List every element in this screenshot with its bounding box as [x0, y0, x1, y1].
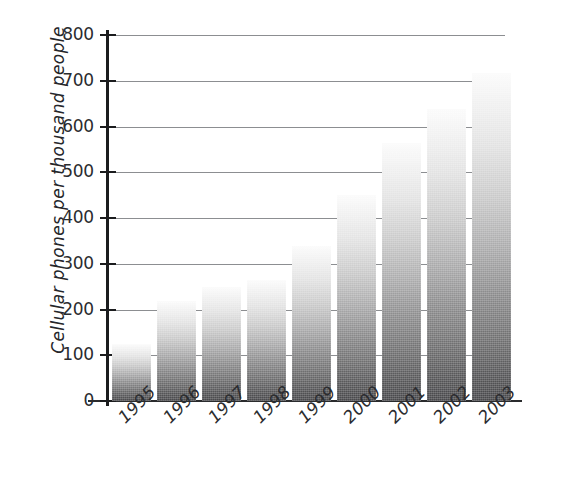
bar	[337, 195, 376, 401]
y-axis-tick-label: 400	[36, 207, 94, 227]
bar-chart: Cellular phones per thousand people 8007…	[0, 0, 574, 478]
y-axis-tick-label: 0	[36, 390, 94, 410]
bar	[292, 246, 331, 401]
y-axis-tick-label: 200	[36, 299, 94, 319]
y-axis-tick-label: 700	[36, 70, 94, 90]
plot-area	[108, 35, 520, 401]
y-axis-tick-label: 800	[36, 24, 94, 44]
bar	[427, 109, 466, 401]
bar	[382, 143, 421, 401]
bar	[472, 73, 511, 401]
y-axis-tick-label: 600	[36, 116, 94, 136]
y-axis-tick-label: 300	[36, 253, 94, 273]
y-axis-tick-label: 500	[36, 161, 94, 181]
y-axis-tick-label: 100	[36, 344, 94, 364]
